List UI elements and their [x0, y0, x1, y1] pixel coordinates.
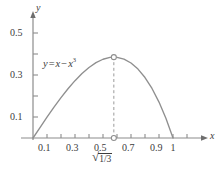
x-tick-label: 0.1	[38, 143, 51, 153]
y-tick-label: 0.5	[10, 28, 23, 38]
x-tick-label: 0.7	[122, 143, 135, 153]
critical-point-annotation: √1/3	[92, 152, 112, 165]
x-tick-label: 0.3	[66, 143, 79, 153]
figure-container: y x y=x−x3 √1/3 0.10.30.50.70.91 0.10.30…	[0, 0, 223, 177]
x-tick-label: 1	[171, 143, 176, 153]
equation-equals-sign: =	[48, 58, 56, 69]
equation-annotation: y=x−x3	[43, 57, 76, 69]
y-tick-label: 0.1	[10, 112, 23, 122]
x-axis-arrow-icon	[201, 135, 208, 140]
x-tick-label: 0.9	[150, 143, 163, 153]
curve-y-equals-x-minus-x-cubed	[33, 57, 173, 138]
radicand-value: 1/3	[98, 153, 112, 165]
maximum-point-marker	[111, 55, 116, 60]
critical-x-point-marker	[111, 136, 116, 141]
y-axis-ticks	[33, 33, 38, 117]
equation-y-term: y	[43, 58, 48, 69]
y-tick-label: 0.3	[10, 70, 23, 80]
y-axis-label: y	[36, 3, 40, 13]
x-axis-label: x	[210, 131, 214, 141]
equation-exponent: 3	[73, 56, 76, 63]
plot-canvas	[0, 0, 223, 177]
x-tick-label: 0.5	[94, 143, 107, 153]
y-axis-arrow-icon	[30, 11, 35, 18]
equation-minus-sign: −	[60, 58, 68, 69]
